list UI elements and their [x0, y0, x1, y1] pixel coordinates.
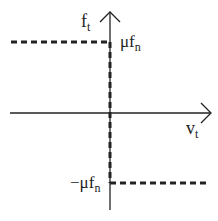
x-axis-label: vt: [186, 118, 199, 141]
lower-level-label: −μfn: [70, 173, 100, 195]
y-axis-label: ft: [81, 11, 91, 34]
upper-level-label: μfn: [120, 32, 141, 54]
friction-diagram: ft vt μfn −μfn: [0, 0, 218, 221]
